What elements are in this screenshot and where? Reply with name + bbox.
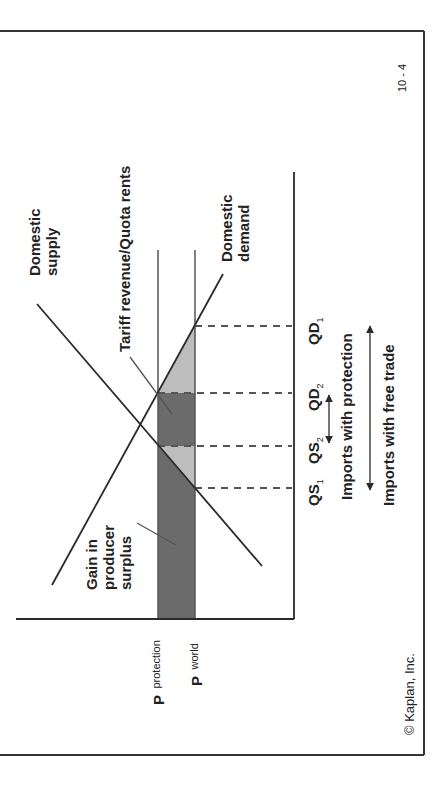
tariff-revenue-label: Tariff revenue/Quota rents [116,166,133,352]
page-number: 10 - 4 [396,64,408,92]
tariff-diagram: Domestic supply Domestic demand Tariff r… [0,0,433,785]
gain-producer-surplus-label: Gain in producer surplus [83,521,134,590]
slide: Domestic supply Domestic demand Tariff r… [0,0,433,785]
domestic-demand-label: Domestic demand [218,190,252,262]
shaded-regions [158,326,195,619]
copyright: © Kaplan, Inc. [402,653,417,735]
p-world-label: P world [188,643,205,686]
imports-free-trade-label: Imports with free trade [380,344,397,506]
qd2-label: QD2 [305,383,325,411]
domestic-supply-label: Domestic supply [26,204,60,276]
tariff-revenue-area [158,393,195,446]
imports-protection-label: Imports with protection [338,333,355,500]
domestic-supply-curve [37,304,262,566]
qs2-label: QS2 [305,437,325,464]
qs1-label: QS1 [305,479,325,506]
domestic-demand-curve [52,274,223,585]
qd1-label: QD1 [305,317,325,345]
p-protection-label: P protection [150,640,167,705]
